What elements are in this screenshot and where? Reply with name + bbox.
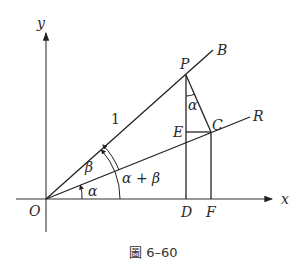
point-b-label: B xyxy=(216,42,227,58)
figure-caption: 圖 6–60 xyxy=(129,245,177,260)
point-f-label: F xyxy=(205,204,217,220)
segment-op-length-label: 1 xyxy=(111,111,120,127)
angle-beta-arc xyxy=(103,145,119,170)
angle-p-label: α xyxy=(188,97,198,113)
point-c-label: C xyxy=(212,117,223,133)
point-d-label: D xyxy=(180,204,192,220)
angle-p-arc xyxy=(186,94,195,96)
trig-diagram: y x O P B C R E D F 1 α β α + β α 圖 6–60 xyxy=(0,0,303,267)
y-axis-label: y xyxy=(36,15,46,31)
angle-alpha-beta-label: α + β xyxy=(122,170,160,186)
angle-beta-label: β xyxy=(84,159,93,175)
x-axis-label: x xyxy=(281,191,289,207)
point-e-label: E xyxy=(172,124,183,140)
angle-alpha-label: α xyxy=(88,183,98,199)
angle-alpha-beta-arc xyxy=(102,150,121,199)
origin-label: O xyxy=(29,203,41,219)
angle-alpha-arc xyxy=(80,186,82,200)
point-p-label: P xyxy=(179,56,190,72)
point-r-label: R xyxy=(252,108,264,124)
